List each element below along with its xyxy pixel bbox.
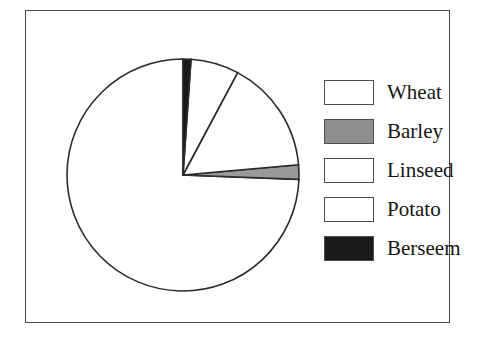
legend-label-berseem: Berseem xyxy=(387,238,460,259)
legend-swatch-berseem xyxy=(324,236,374,261)
legend-swatch-wheat xyxy=(324,80,374,105)
legend-item-barley: Barley xyxy=(324,116,474,147)
legend-item-linseed: Linseed xyxy=(324,155,474,186)
legend-item-wheat: Wheat xyxy=(324,77,474,108)
pie-chart-plot-area xyxy=(57,49,309,301)
legend-label-wheat: Wheat xyxy=(387,82,442,103)
legend-label-linseed: Linseed xyxy=(387,160,453,181)
pie-slice-group xyxy=(67,59,299,291)
legend-swatch-potato xyxy=(324,197,374,222)
legend-label-potato: Potato xyxy=(387,199,441,220)
legend-swatch-barley xyxy=(324,119,374,144)
legend-item-berseem: Berseem xyxy=(324,233,474,264)
legend-label-barley: Barley xyxy=(387,121,443,142)
legend-swatch-linseed xyxy=(324,158,374,183)
legend-item-potato: Potato xyxy=(324,194,474,225)
figure-frame: Wheat Barley Linseed Potato Berseem xyxy=(25,10,450,323)
chart-legend: Wheat Barley Linseed Potato Berseem xyxy=(324,77,474,264)
pie-chart-svg xyxy=(57,49,309,301)
chart-figure: Wheat Barley Linseed Potato Berseem xyxy=(0,0,477,346)
